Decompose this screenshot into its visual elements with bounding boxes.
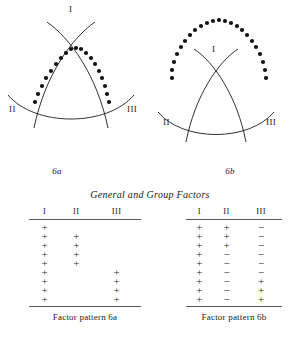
dot-series-6b bbox=[170, 18, 268, 80]
figure-6b-label-III: III bbox=[266, 117, 276, 127]
sign-cell: + bbox=[92, 295, 141, 307]
sign-cell: + bbox=[240, 295, 282, 307]
figure-6a-label-III: III bbox=[127, 104, 137, 114]
figure-6b-label-II: II bbox=[163, 117, 170, 127]
column-header-I: I bbox=[29, 206, 60, 220]
figure-6a-drawing bbox=[0, 0, 150, 190]
column-header-III: III bbox=[240, 206, 282, 220]
factor-pattern-tables: I II III + ++ ++ ++ ++ + ++ ++ ++ + Fact… bbox=[0, 206, 300, 361]
figure-6a: I II III 6a bbox=[0, 0, 150, 190]
dot-series-6a bbox=[33, 46, 111, 104]
column-header-III: III bbox=[92, 206, 141, 220]
sign-cell: + bbox=[29, 295, 60, 307]
figure-6b-label-I: I bbox=[212, 44, 215, 54]
table-6a-body: + ++ ++ ++ ++ + ++ ++ ++ + bbox=[29, 220, 141, 307]
table-6b-body: ++−++−++−+−−+−−+−−+−++−++−+ bbox=[186, 220, 282, 307]
sign-cell: + bbox=[186, 295, 213, 307]
figure-6b-drawing bbox=[150, 0, 300, 190]
column-header-II: II bbox=[213, 206, 241, 220]
figure-page: I II III 6a bbox=[0, 0, 300, 361]
table-row: + + bbox=[29, 295, 141, 307]
section-caption: General and Group Factors bbox=[0, 189, 300, 200]
factor-pattern-6b-table: I II III ++−++−++−+−−+−−+−−+−++−++−+ Fac… bbox=[186, 206, 282, 322]
empty-cell bbox=[60, 295, 92, 307]
sign-cell: − bbox=[213, 295, 241, 307]
table-6b-caption: Factor pattern 6b bbox=[186, 307, 282, 322]
table-row: +−+ bbox=[186, 295, 282, 307]
table-6a: I II III + ++ ++ ++ ++ + ++ ++ ++ + bbox=[29, 206, 141, 307]
figure-6b: I II III 6b bbox=[150, 0, 300, 190]
figure-6a-caption: 6a bbox=[0, 166, 132, 176]
figure-6a-label-II: II bbox=[9, 104, 16, 114]
table-header-row: I II III bbox=[29, 206, 141, 220]
column-header-II: II bbox=[60, 206, 92, 220]
table-6a-caption: Factor pattern 6a bbox=[29, 307, 141, 322]
factor-pattern-6a-table: I II III + ++ ++ ++ ++ + ++ ++ ++ + Fact… bbox=[29, 206, 141, 322]
column-header-I: I bbox=[186, 206, 213, 220]
figure-6b-caption: 6b bbox=[155, 166, 300, 176]
table-6b: I II III ++−++−++−+−−+−−+−−+−++−++−+ bbox=[186, 206, 282, 307]
table-header-row: I II III bbox=[186, 206, 282, 220]
figures-row: I II III 6a bbox=[0, 0, 300, 190]
figure-6a-label-I: I bbox=[69, 4, 72, 14]
